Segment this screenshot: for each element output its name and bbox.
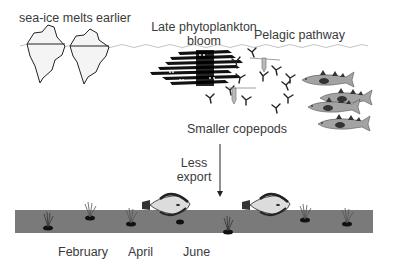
pelagic-pathway-label: Pelagic pathway <box>254 28 345 42</box>
month-june: June <box>183 245 210 259</box>
bloom-label-line1: Late phytoplankton <box>144 20 264 34</box>
iceberg-icon <box>70 29 109 84</box>
iceberg-icon <box>27 25 65 83</box>
pelagic-fish-school-icon <box>302 70 372 131</box>
phytoplankton-bloom-icon <box>150 50 243 86</box>
export-label-line1: Less <box>170 156 218 170</box>
bloom-label-line2: bloom <box>144 34 264 48</box>
seafloor-band <box>15 210 373 233</box>
copepods-label: Smaller copepods <box>187 122 287 136</box>
export-label-line2: export <box>170 170 218 184</box>
month-february: February <box>58 245 108 259</box>
month-april: April <box>128 245 153 259</box>
sea-ice-label: sea-ice melts earlier <box>19 11 131 25</box>
